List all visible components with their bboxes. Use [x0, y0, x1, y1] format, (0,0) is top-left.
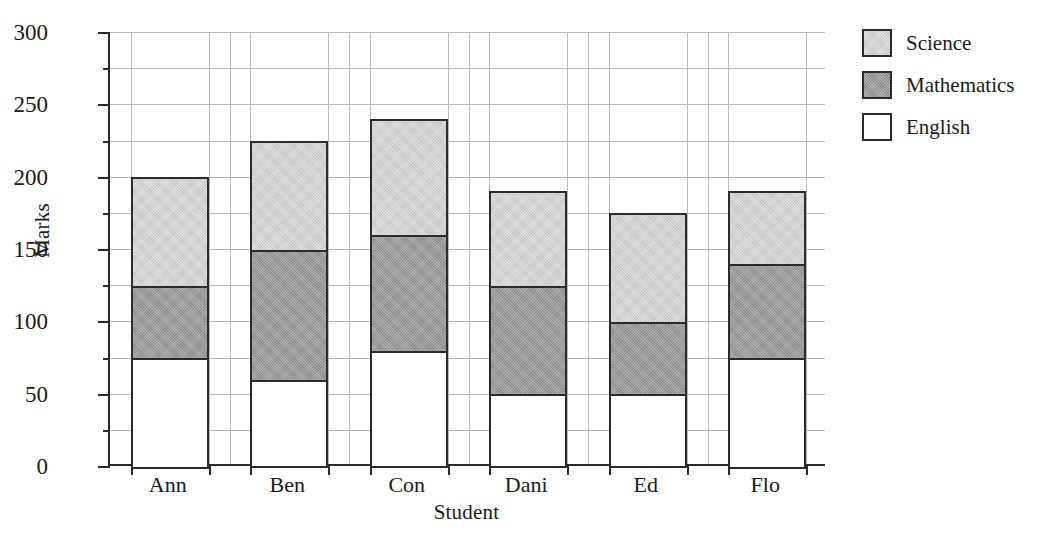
x-tick-label-con: Con: [388, 474, 425, 496]
x-tick-label-ed: Ed: [634, 474, 658, 496]
legend-item-mathematics[interactable]: Mathematics: [862, 64, 1042, 106]
gridline-horizontal: [110, 249, 825, 250]
bar-segment-ben-english: [250, 379, 328, 468]
gridline-horizontal: [110, 358, 825, 359]
x-tick-label-dani: Dani: [505, 474, 548, 496]
y-tick-minor: [103, 430, 110, 432]
bar-segment-ed-science: [609, 213, 687, 324]
y-tick-minor: [103, 141, 110, 143]
x-tick-label-ann: Ann: [149, 474, 187, 496]
stacked-bar-chart: Marks 050100150200250300 AnnBenConDaniEd…: [0, 0, 1043, 540]
bar-segment-flo-english: [728, 358, 806, 469]
bar-segment-dani-english: [489, 394, 567, 469]
bar-segment-ed-mathematics: [609, 321, 687, 396]
x-tick: [328, 464, 330, 475]
bar-segment-ann-mathematics: [131, 285, 209, 360]
gridline-horizontal: [110, 141, 825, 142]
x-tick: [567, 464, 569, 475]
gridline-horizontal: [110, 285, 825, 286]
y-tick-label: 100: [0, 310, 48, 333]
y-tick-label: 300: [0, 21, 48, 44]
x-tick: [806, 464, 808, 475]
y-tick-major: [98, 321, 110, 323]
gridline-horizontal: [110, 394, 825, 395]
gridline-vertical: [209, 32, 210, 464]
gridline-horizontal: [110, 32, 825, 33]
bar-segment-ann-english: [131, 358, 209, 469]
y-tick-minor: [103, 68, 110, 70]
bar-segment-con-mathematics: [370, 235, 448, 353]
bar-segment-flo-science: [728, 191, 806, 266]
gridline-horizontal: [110, 177, 825, 178]
x-axis-title: Student: [108, 500, 825, 525]
x-tick-label-ben: Ben: [270, 474, 305, 496]
gridline-vertical: [708, 32, 709, 464]
grid-layer: [110, 32, 825, 464]
x-tick: [448, 464, 450, 475]
y-tick-label: 200: [0, 165, 48, 188]
y-tick-label: 0: [0, 455, 48, 478]
legend-label-english: English: [906, 117, 970, 138]
plot-area: [108, 32, 825, 466]
y-tick-major: [98, 32, 110, 34]
gridline-vertical: [588, 32, 589, 464]
x-tick-label-flo: Flo: [751, 474, 780, 496]
y-tick-minor: [103, 358, 110, 360]
bar-segment-ann-science: [131, 177, 209, 288]
bar-segment-con-english: [370, 350, 448, 468]
bar-segment-dani-mathematics: [489, 285, 567, 396]
bar-segment-flo-mathematics: [728, 263, 806, 360]
legend-item-science[interactable]: Science: [862, 22, 1042, 64]
x-tick: [687, 464, 689, 475]
gridline-horizontal: [110, 68, 825, 69]
y-tick-label: 150: [0, 238, 48, 261]
legend-swatch-english: [862, 113, 892, 141]
gridline-vertical: [687, 32, 688, 464]
y-tick-major: [98, 249, 110, 251]
chart-legend: ScienceMathematicsEnglish: [862, 22, 1042, 148]
bar-segment-con-science: [370, 119, 448, 237]
y-tick-minor: [103, 285, 110, 287]
gridline-vertical: [448, 32, 449, 464]
legend-swatch-science: [862, 29, 892, 57]
bar-segment-ben-mathematics: [250, 249, 328, 382]
x-tick: [209, 464, 211, 475]
gridline-horizontal: [110, 430, 825, 431]
bar-segment-dani-science: [489, 191, 567, 288]
y-tick-major: [98, 466, 110, 468]
gridline-vertical: [469, 32, 470, 464]
gridline-horizontal: [110, 321, 825, 322]
bar-segment-ed-english: [609, 394, 687, 469]
y-tick-label: 50: [0, 382, 48, 405]
y-tick-major: [98, 104, 110, 106]
gridline-horizontal: [110, 104, 825, 105]
legend-label-science: Science: [906, 33, 971, 54]
gridline-horizontal: [110, 213, 825, 214]
gridline-vertical: [230, 32, 231, 464]
legend-label-mathematics: Mathematics: [906, 75, 1014, 96]
y-tick-minor: [103, 213, 110, 215]
gridline-vertical: [349, 32, 350, 464]
legend-swatch-mathematics: [862, 71, 892, 99]
bar-segment-ben-science: [250, 141, 328, 252]
y-tick-label: 250: [0, 93, 48, 116]
legend-item-english[interactable]: English: [862, 106, 1042, 148]
y-tick-major: [98, 177, 110, 179]
y-tick-major: [98, 394, 110, 396]
